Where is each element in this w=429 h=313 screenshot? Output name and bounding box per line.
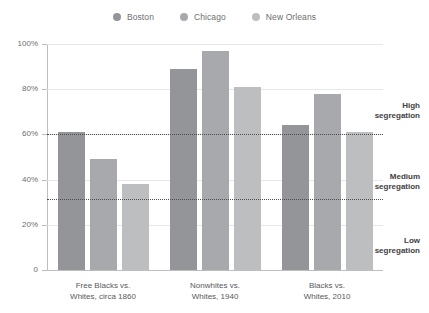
y-axis-tick-label: 20% bbox=[4, 221, 38, 229]
annotation-high-segregation: High segregation bbox=[330, 101, 420, 121]
y-axis-tick-label: 100% bbox=[4, 40, 38, 48]
legend-dot-icon bbox=[180, 13, 188, 21]
x-axis-group-label: Free Blacks vs.Whites, circa 1860 bbox=[47, 280, 159, 302]
annotation-high-line2: segregation bbox=[330, 111, 420, 121]
threshold-line bbox=[47, 134, 383, 135]
y-axis-tick-label: 60% bbox=[4, 130, 38, 138]
bar-chicago bbox=[202, 51, 229, 270]
legend-dot-icon bbox=[252, 13, 260, 21]
y-axis-tick-label: 80% bbox=[4, 85, 38, 93]
legend-item-new-orleans: New Orleans bbox=[252, 12, 316, 22]
segregation-bar-chart: Boston Chicago New Orleans 020%40%60%80%… bbox=[0, 0, 429, 313]
legend-item-chicago: Chicago bbox=[180, 12, 226, 22]
bar-boston bbox=[282, 125, 309, 270]
group-label-line2: Whites, 2010 bbox=[271, 291, 383, 302]
threshold-line bbox=[47, 199, 383, 200]
group-label-line1: Nonwhites vs. bbox=[159, 280, 271, 291]
x-axis-group-label: Blacks vs.Whites, 2010 bbox=[271, 280, 383, 302]
legend-label-boston: Boston bbox=[127, 12, 154, 22]
y-axis-tick-label: 40% bbox=[4, 176, 38, 184]
group-label-line1: Blacks vs. bbox=[271, 280, 383, 291]
x-axis-line bbox=[47, 270, 383, 271]
legend-item-boston: Boston bbox=[113, 12, 154, 22]
y-axis-tick-label: 0 bbox=[4, 266, 38, 274]
legend-dot-icon bbox=[113, 13, 121, 21]
bar-chicago bbox=[90, 159, 117, 270]
legend-label-new-orleans: New Orleans bbox=[266, 12, 316, 22]
annotation-medium-line2: segregation bbox=[330, 182, 420, 192]
bar-new-orleans bbox=[122, 184, 149, 270]
group-label-line1: Free Blacks vs. bbox=[47, 280, 159, 291]
annotation-high-line1: High bbox=[330, 101, 420, 111]
group-label-line2: Whites, circa 1860 bbox=[47, 291, 159, 302]
annotation-low-line2: segregation bbox=[330, 246, 420, 256]
bar-boston bbox=[58, 132, 85, 270]
bar-boston bbox=[170, 69, 197, 270]
annotation-medium-segregation: Medium segregation bbox=[330, 172, 420, 192]
annotation-low-line1: Low bbox=[330, 236, 420, 246]
annotation-low-segregation: Low segregation bbox=[330, 236, 420, 256]
annotation-medium-line1: Medium bbox=[330, 172, 420, 182]
group-label-line2: Whites, 1940 bbox=[159, 291, 271, 302]
bar-new-orleans bbox=[234, 87, 261, 270]
gridline bbox=[47, 44, 383, 45]
x-axis-group-label: Nonwhites vs.Whites, 1940 bbox=[159, 280, 271, 302]
legend-label-chicago: Chicago bbox=[194, 12, 226, 22]
chart-legend: Boston Chicago New Orleans bbox=[0, 12, 429, 22]
